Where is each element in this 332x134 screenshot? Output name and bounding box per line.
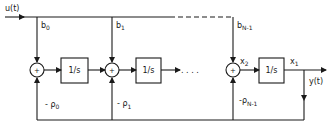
summer-2: + [105, 63, 119, 77]
state-x1: x1 [290, 57, 299, 67]
gain-bN-1: bN-1 [237, 21, 253, 31]
svg-text:+: + [109, 67, 115, 75]
state-x2: x2 [240, 57, 249, 67]
svg-text:1/s: 1/s [266, 66, 278, 75]
svg-text:1/s: 1/s [69, 66, 81, 75]
output-label: y(t) [309, 77, 323, 86]
svg-text:1/s: 1/s [143, 66, 155, 75]
svg-text:+: + [230, 67, 236, 75]
block-diagram: u(t) b0 b1 bN-1 + 1/s + 1/s . . . . + x2… [0, 0, 332, 134]
input-label: u(t) [5, 4, 19, 13]
gain-b1: b1 [116, 21, 125, 31]
summer-3: + [226, 63, 240, 77]
summer-1: + [30, 63, 44, 77]
integrator-2: 1/s [136, 58, 161, 83]
gain-b0: b0 [41, 21, 50, 31]
gain-rho1: - ρ1 [117, 99, 132, 110]
gain-rhoN-1: -ρN-1 [239, 96, 258, 107]
continuation-dots: . . . . [181, 66, 199, 75]
integrator-1: 1/s [61, 58, 88, 83]
gain-rho0: - ρ0 [45, 100, 60, 110]
svg-text:+: + [34, 67, 40, 75]
integrator-3: 1/s [259, 58, 284, 83]
